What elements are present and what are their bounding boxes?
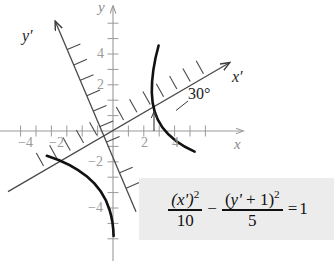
hyperbola-equation: (x')2 10 − (y' + 1)2 5 = 1 (165, 189, 308, 230)
y-prime-axis-label: y′ (22, 28, 33, 44)
x-tick-label--4: −4 (18, 136, 33, 150)
equation-box: (x')2 10 − (y' + 1)2 5 = 1 (139, 178, 334, 240)
first-fraction-numerator: (x')2 (168, 189, 202, 210)
hyperbola-left-branch (47, 156, 114, 236)
first-numerator-base: (x') (171, 189, 194, 208)
first-fraction-denominator: 10 (174, 211, 197, 230)
second-numerator-exponent: 2 (274, 188, 280, 200)
y-axis-label: y (98, 0, 105, 15)
x-tick-label-4: 4 (172, 136, 179, 150)
x-tick-label-2: 2 (141, 136, 148, 150)
second-fraction-numerator: (y' + 1)2 (222, 189, 283, 210)
second-numerator-plus: + (246, 189, 256, 208)
y-tick-label-2: 2 (97, 78, 104, 92)
angle-label-leader-line (176, 101, 188, 111)
x-tick-label--2: −2 (49, 136, 64, 150)
second-fraction: (y' + 1)2 5 (222, 189, 283, 230)
second-fraction-denominator: 5 (245, 211, 260, 230)
minus-operator: − (207, 199, 217, 219)
x-prime-axis-ticks (36, 61, 203, 166)
x-axis-label: x (234, 137, 241, 152)
first-fraction: (x')2 10 (168, 189, 202, 230)
rotation-angle-label: 30° (188, 86, 210, 102)
first-numerator-exponent: 2 (194, 188, 200, 200)
y-tick-label-4: 4 (97, 47, 104, 61)
second-numerator-variable: y' (231, 189, 242, 208)
equation-right-side: 1 (299, 199, 308, 219)
figure-container: −4 −2 2 4 4 2 −2 −4 x y x′ y′ 30° (x')2 … (0, 0, 334, 261)
equals-sign: = (288, 199, 298, 219)
x-prime-axis (8, 63, 229, 192)
y-tick-label--4: −4 (88, 201, 103, 215)
y-prime-axis-ticks (67, 44, 139, 188)
x-prime-axis-label: x′ (232, 69, 243, 85)
y-tick-label--2: −2 (88, 155, 103, 169)
